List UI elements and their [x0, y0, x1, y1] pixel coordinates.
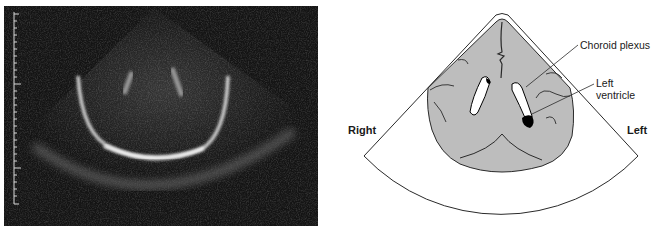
label-left-ventricle-line2: ventricle	[596, 89, 635, 101]
label-choroid-plexus: Choroid plexus	[580, 39, 650, 51]
label-left-ventricle-line1: Left	[596, 77, 614, 89]
label-side-left: Left	[627, 124, 647, 136]
diagram-graphic	[330, 0, 652, 234]
ultrasound-scan-graphic	[4, 6, 318, 226]
brain-diagram: Choroid plexus Left ventricle Right Left	[330, 0, 652, 234]
label-side-right: Right	[348, 124, 376, 136]
ultrasound-image	[4, 6, 318, 226]
